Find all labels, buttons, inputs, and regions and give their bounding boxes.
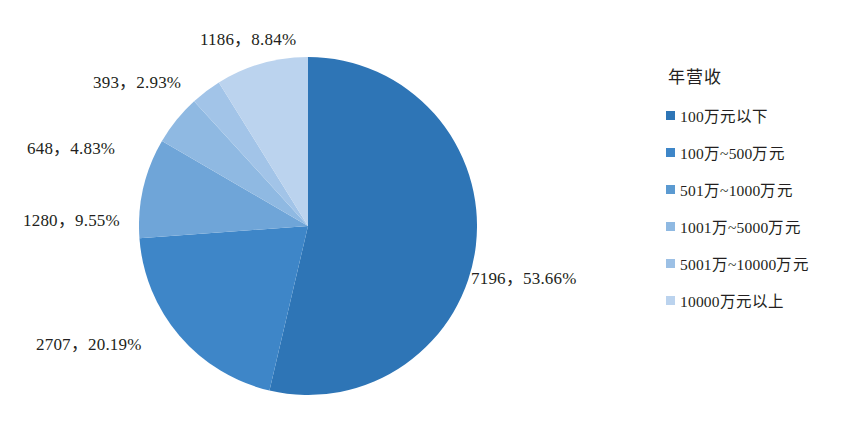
pie-chart: 7196，53.66% 2707，20.19% 1280，9.55% 648，4… [0,0,856,422]
legend-item-label: 100万~500万元 [680,141,785,163]
legend: 年营收 100万元以下 100万~500万元 501万~1000万元 1001万… [666,63,846,328]
legend-swatch-icon [666,296,675,305]
data-label-slice-2: 2707，20.19% [36,330,142,355]
legend-item-label: 100万元以下 [680,104,769,126]
legend-swatch-icon [666,259,675,268]
legend-item-1001万~5000万元[interactable]: 1001万~5000万元 [666,217,846,235]
legend-title: 年营收 [668,63,846,88]
pie-svg [139,57,477,395]
legend-item-label: 1001万~5000万元 [680,215,801,237]
data-label-slice-6: 1186，8.84% [200,25,296,50]
legend-item-5001万~10000万元[interactable]: 5001万~10000万元 [666,254,846,272]
legend-item-10000万元以上[interactable]: 10000万元以上 [666,291,846,309]
legend-item-label: 5001万~10000万元 [680,252,809,274]
legend-swatch-icon [666,148,675,157]
legend-item-100万元以下[interactable]: 100万元以下 [666,106,846,124]
legend-swatch-icon [666,185,675,194]
legend-swatch-icon [666,222,675,231]
legend-item-501万~1000万元[interactable]: 501万~1000万元 [666,180,846,198]
pie-slices [139,57,477,395]
legend-item-100万~500万元[interactable]: 100万~500万元 [666,143,846,161]
pie-plot-area [139,57,477,395]
data-label-slice-4: 648，4.83% [27,134,115,159]
data-label-slice-5: 393，2.93% [93,68,181,93]
legend-item-label: 10000万元以上 [680,289,785,311]
legend-item-label: 501万~1000万元 [680,178,793,200]
data-label-slice-3: 1280，9.55% [23,206,120,231]
legend-swatch-icon [666,111,675,120]
data-label-slice-1: 7196，53.66% [471,264,577,289]
